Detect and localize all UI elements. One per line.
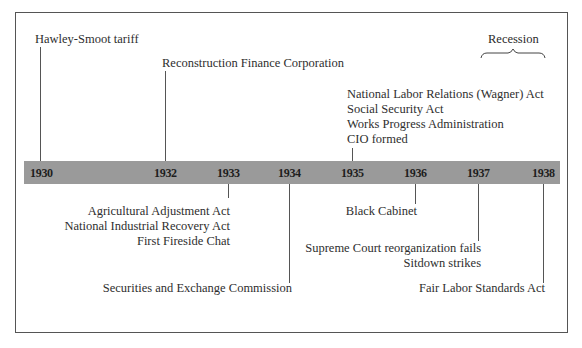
event-cio: CIO formed xyxy=(347,131,408,147)
year-1930: 1930 xyxy=(30,166,53,181)
event-sitdown: Sitdown strikes xyxy=(404,255,481,271)
connector-1930 xyxy=(40,47,41,161)
event-rfc: Reconstruction Finance Corporation xyxy=(162,55,344,71)
year-1932: 1932 xyxy=(154,166,177,181)
event-nira: National Industrial Recovery Act xyxy=(64,218,230,234)
event-sec: Securities and Exchange Commission xyxy=(103,280,292,296)
connector-1936 xyxy=(415,184,416,204)
event-social-security: Social Security Act xyxy=(347,101,444,117)
year-1936: 1936 xyxy=(404,166,427,181)
event-hawley-smoot: Hawley-Smoot tariff xyxy=(35,31,139,47)
event-aaa: Agricultural Adjustment Act xyxy=(88,203,230,219)
connector-1934 xyxy=(289,184,290,283)
event-wpa: Works Progress Administration xyxy=(347,116,504,132)
recession-brace-icon xyxy=(478,48,548,60)
year-1935: 1935 xyxy=(341,166,364,181)
year-1934: 1934 xyxy=(278,166,301,181)
connector-1932 xyxy=(165,71,166,161)
event-fireside-chat: First Fireside Chat xyxy=(137,233,230,249)
connector-1933 xyxy=(228,184,229,198)
connector-1935 xyxy=(352,148,353,161)
year-1938: 1938 xyxy=(532,166,555,181)
event-wagner-act: National Labor Relations (Wagner) Act xyxy=(347,86,544,102)
year-1937: 1937 xyxy=(467,166,490,181)
event-flsa: Fair Labor Standards Act xyxy=(419,280,545,296)
year-1933: 1933 xyxy=(217,166,240,181)
connector-1937 xyxy=(478,184,479,241)
connector-1938 xyxy=(543,184,544,283)
recession-label: Recession xyxy=(488,32,539,47)
event-black-cabinet: Black Cabinet xyxy=(346,203,417,219)
event-court-reorg: Supreme Court reorganization fails xyxy=(305,240,481,256)
